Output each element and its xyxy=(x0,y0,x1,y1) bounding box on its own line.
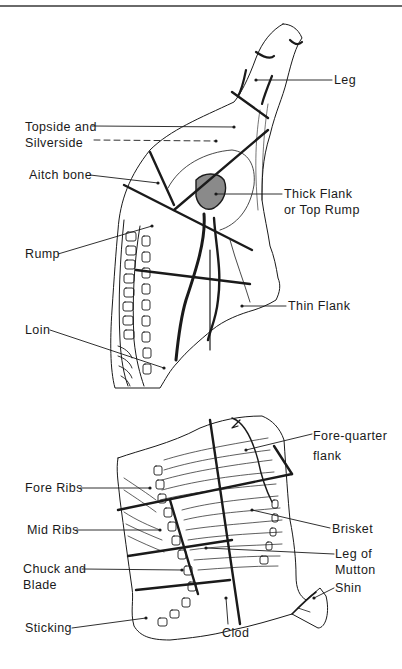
label-leg-of-mutton: Leg of Mutton xyxy=(335,546,376,578)
label-topside-silverside: Topside and Silverside xyxy=(25,119,97,151)
label-thick-flank: Thick Flank or Top Rump xyxy=(284,186,360,218)
cut-fore-ribs xyxy=(118,474,292,510)
cut-topside xyxy=(150,152,174,205)
label-brisket: Brisket xyxy=(332,521,373,537)
label-loin: Loin xyxy=(25,322,50,338)
label-mid-ribs: Mid Ribs xyxy=(27,522,79,538)
label-chuck-blade: Chuck and Blade xyxy=(23,561,86,593)
label-clod: Clod xyxy=(222,625,249,641)
fore-quarter-outline xyxy=(117,416,327,640)
cut-aitch xyxy=(124,185,252,250)
label-thin-flank: Thin Flank xyxy=(288,298,350,314)
label-fore-quarter-flank: Fore-quarter flank xyxy=(313,426,387,466)
label-sticking: Sticking xyxy=(25,620,72,636)
label-rump: Rump xyxy=(25,246,60,262)
cut-flank xyxy=(274,446,292,474)
cut-blade xyxy=(136,580,230,590)
label-fore-ribs: Fore Ribs xyxy=(25,480,83,496)
cut-fq-vertical xyxy=(210,420,240,624)
label-shin: Shin xyxy=(335,580,362,596)
cut-leg xyxy=(232,92,268,118)
label-leg: Leg xyxy=(334,72,356,88)
label-aitch-bone: Aitch bone xyxy=(29,167,92,183)
